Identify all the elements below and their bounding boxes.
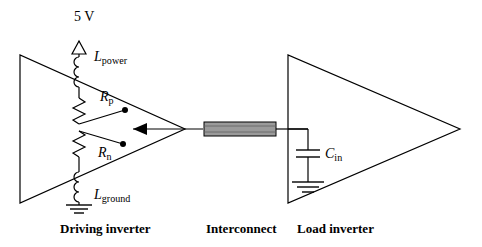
- caption-interconnect: Interconnect: [206, 222, 277, 235]
- inductor-power-label: Lpower: [94, 50, 127, 64]
- node-dot-rp: [122, 107, 128, 113]
- resistor-n-symbol: [73, 131, 85, 157]
- capacitor-in-label: Cin: [325, 147, 342, 161]
- node-dot-rn: [120, 141, 126, 147]
- supply-arrowhead: [72, 41, 86, 54]
- caption-driving-inverter: Driving inverter: [60, 222, 151, 235]
- interconnect-block: [204, 122, 276, 136]
- figure-canvas: 5 V Lpower Rp Rn Lground Cin Driving inv…: [0, 0, 482, 247]
- load-inverter-symbol: [288, 55, 460, 203]
- caption-load-inverter: Load inverter: [297, 222, 374, 235]
- inductor-ground-label: Lground: [94, 188, 130, 202]
- wire-rn-to-node: [79, 131, 123, 144]
- wire-rp-to-node: [79, 110, 125, 124]
- signal-arrow-head: [133, 123, 147, 135]
- resistor-p-symbol: [73, 98, 85, 124]
- supply-voltage-label: 5 V: [74, 10, 94, 24]
- resistor-n-label: Rn: [98, 146, 112, 160]
- resistor-p-label: Rp: [100, 90, 114, 104]
- circuit-schematic: [0, 0, 482, 247]
- inductor-power-symbol: [74, 57, 79, 87]
